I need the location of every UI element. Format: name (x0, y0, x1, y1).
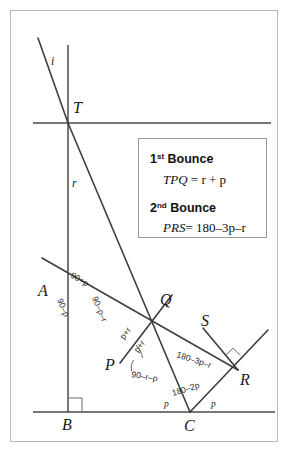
bounce1-ordinal: 1 (150, 152, 157, 166)
angle-label-C-left: p (163, 399, 169, 409)
right-angle-marker-R (226, 348, 240, 355)
bounce2-heading-word: Bounce (170, 201, 216, 215)
angle-label-C-apex: 180–2p (171, 380, 201, 398)
point-label-P: P (104, 356, 115, 373)
point-label-R: R (239, 371, 250, 388)
point-label-T: T (73, 99, 83, 116)
point-label-S: S (201, 312, 209, 329)
ray-label-incident: i (51, 54, 54, 68)
ray-label-reflected: r (72, 176, 77, 190)
angle-label-P-lower: 90–r–p (131, 369, 159, 383)
point-label-Q: Q (160, 291, 172, 308)
ray-C-R-out (190, 330, 268, 412)
bounce2-equation: PRS= 180–3p–r (162, 220, 246, 235)
right-angle-marker-B (68, 398, 82, 412)
incident-ray (38, 38, 68, 123)
angle-label-C-right: p (210, 399, 216, 409)
angle-label-A-above: 90+p (69, 270, 91, 288)
bounce2-equation-rest: = 180–3p–r (185, 220, 246, 235)
geometry-figure: T A P Q S R B C i r 90+p 90–p 90–p–r p+r… (0, 0, 288, 452)
bounce2-ordinal-suffix: nd (157, 201, 167, 210)
angle-label-A-below: 90–p (55, 297, 72, 319)
angle-label-along-AP: 90–p–r (90, 295, 110, 323)
angle-label-P-inner: p+r (132, 338, 148, 354)
diagram-canvas: T A P Q S R B C i r 90+p 90–p 90–p–r p+r… (0, 0, 288, 452)
bounce1-equation-rest: = r + p (191, 172, 226, 187)
point-label-B: B (62, 416, 72, 433)
bounce2-ordinal: 2 (150, 201, 157, 215)
bounce2-equation-name: PRS (162, 220, 186, 235)
bounce1-equation: TPQ = r + p (163, 172, 226, 187)
bounce1-heading-word: Bounce (168, 152, 214, 166)
angle-label-P-upper: p+r (118, 325, 134, 341)
point-label-C: C (184, 417, 195, 434)
bounce1-equation-name: TPQ (163, 172, 188, 187)
point-label-A: A (37, 282, 48, 299)
